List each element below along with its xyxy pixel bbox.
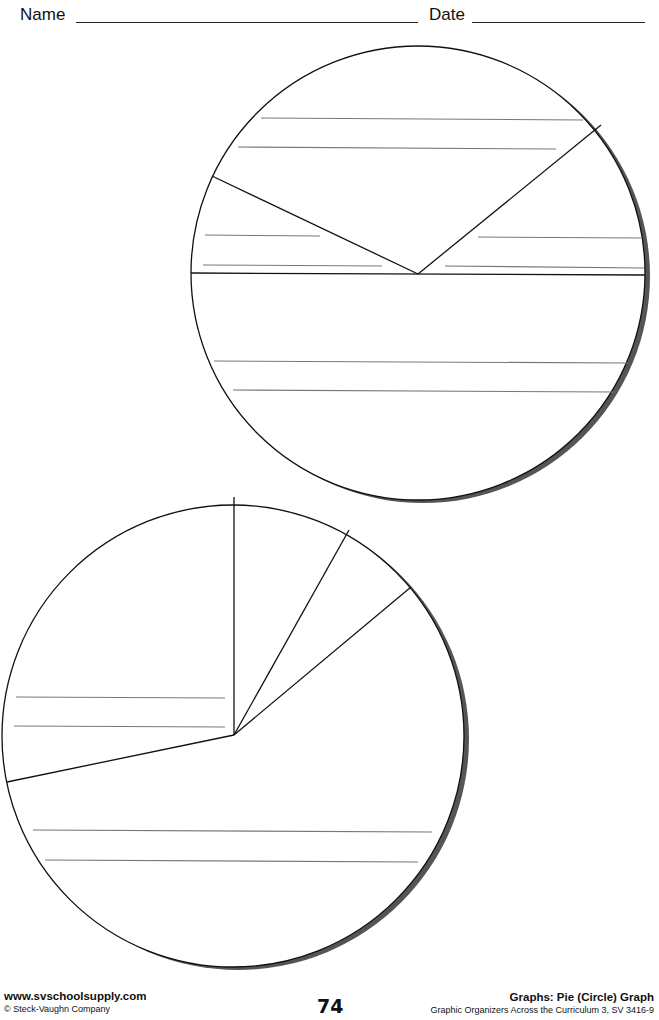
pie-graphs [0, 0, 659, 1020]
pie-graph-bottom [2, 497, 469, 970]
pie-graph-top [191, 46, 650, 503]
footer-copyright: © Steck-Vaughn Company [4, 1004, 110, 1014]
footer-website: www.svschoolsupply.com [4, 990, 147, 1002]
page-number: 74 [317, 995, 343, 1017]
footer-title: Graphs: Pie (Circle) Graph [510, 991, 654, 1003]
pie-bottom-circle [2, 505, 464, 967]
footer-subtitle: Graphic Organizers Across the Curriculum… [430, 1005, 654, 1015]
